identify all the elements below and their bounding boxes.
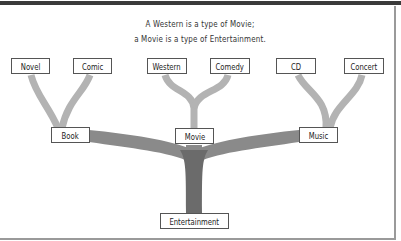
leaf-branches — [31, 75, 362, 128]
node-western: Western — [147, 58, 187, 74]
node-comic: Comic — [73, 58, 112, 74]
node-music: Music — [299, 127, 338, 143]
node-movie: Movie — [175, 128, 214, 144]
node-novel: Novel — [11, 58, 50, 74]
tree-branches — [0, 0, 401, 241]
node-concert: Concert — [344, 58, 384, 74]
node-comedy: Comedy — [210, 58, 250, 74]
node-entertainment: Entertainment — [160, 213, 229, 229]
trunk — [180, 150, 208, 213]
node-book: Book — [51, 127, 90, 143]
node-cd: CD — [276, 58, 316, 74]
